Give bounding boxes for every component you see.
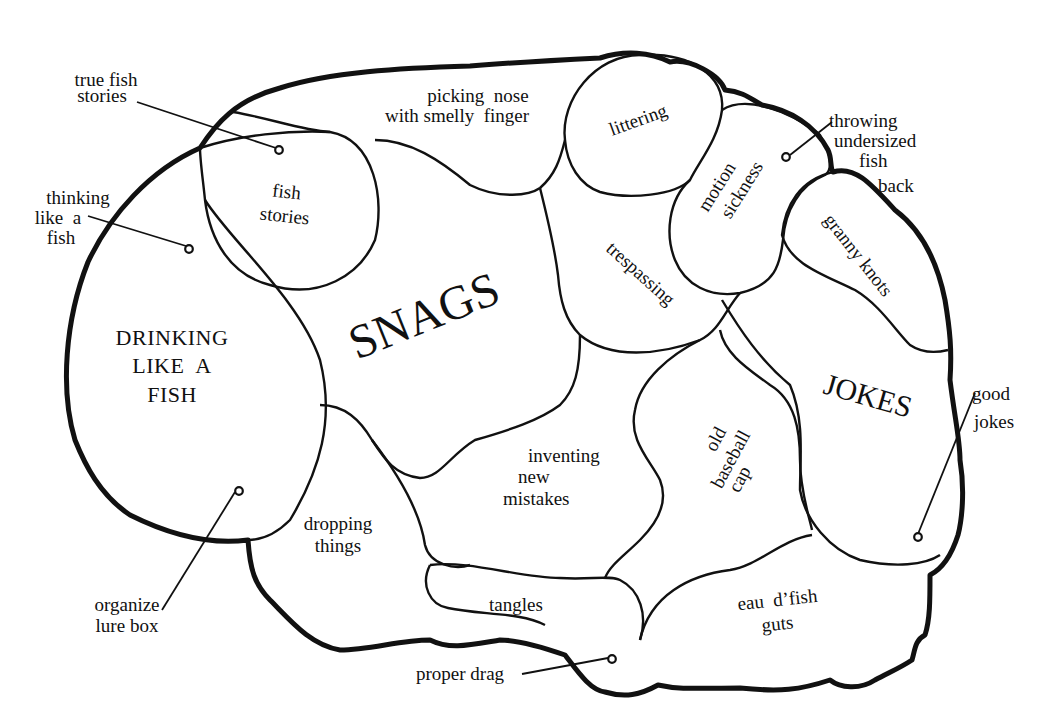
svg-text:stories: stories [77, 85, 127, 106]
svg-text:FISH: FISH [147, 382, 197, 407]
svg-text:lure box: lure box [96, 615, 159, 636]
svg-text:like a: like a [35, 207, 82, 228]
svg-text:guts: guts [760, 611, 794, 635]
svg-text:thinking: thinking [46, 187, 110, 208]
svg-text:LIKE A: LIKE A [132, 353, 211, 378]
svg-text:inventing: inventing [528, 445, 600, 466]
svg-text:good: good [972, 383, 1011, 404]
svg-text:back: back [878, 175, 914, 196]
svg-text:new: new [518, 466, 550, 487]
svg-text:picking nose: picking nose [427, 85, 528, 106]
svg-text:with smelly finger: with smelly finger [385, 105, 530, 126]
svg-text:DRINKING: DRINKING [116, 325, 229, 350]
callout-true-fish-stories: true fish stories [75, 69, 138, 106]
callout-good-jokes: good jokes [972, 383, 1014, 432]
callout-proper-drag: proper drag [416, 663, 505, 684]
callout-organize-lure-box: organize lure box [94, 594, 159, 636]
svg-text:jokes: jokes [973, 411, 1014, 432]
region-label-tangles: tangles [489, 594, 543, 615]
fisherman-brain-diagram: SNAGS DRINKING LIKE A FISH JOKES fish st… [0, 0, 1059, 726]
svg-text:fish: fish [859, 150, 888, 171]
svg-text:throwing: throwing [829, 110, 898, 131]
svg-text:mistakes: mistakes [503, 488, 570, 509]
svg-text:organize: organize [94, 594, 159, 615]
svg-text:things: things [315, 535, 361, 556]
svg-text:dropping: dropping [304, 513, 373, 534]
svg-text:fish: fish [47, 227, 76, 248]
svg-text:fish: fish [271, 180, 302, 204]
svg-text:undersized: undersized [834, 130, 917, 151]
